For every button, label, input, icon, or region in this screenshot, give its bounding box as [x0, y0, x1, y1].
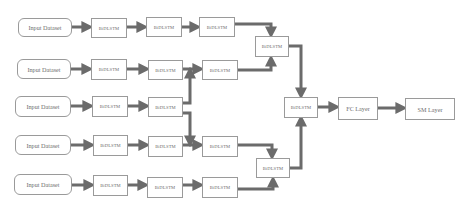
input-dataset-1: Input Dataset	[18, 18, 72, 37]
bidlstm-r5-c3: BiDLSTM	[202, 177, 238, 198]
fc-layer: FC Layer	[338, 97, 378, 120]
bidlstm-r3-c2: BiDLSTM	[148, 97, 183, 117]
bidlstm-r4-c1: BiDLSTM	[93, 135, 128, 156]
bidlstm-r5-c1: BiDLSTM	[93, 175, 128, 196]
input-dataset-3: Input Dataset	[15, 96, 71, 117]
bidlstm-r4-c2: BiDLSTM	[148, 136, 183, 157]
bidlstm-r3-c1: BiDLSTM	[92, 96, 128, 117]
bidlstm-r2-c3: BiDLSTM	[202, 60, 238, 80]
bidlstm-merge-bottom: BiDLSTM	[256, 158, 290, 178]
bidlstm-r2-c2: BiDLSTM	[148, 60, 183, 80]
bidlstm-merge-center: BiDLSTM	[284, 97, 318, 118]
input-dataset-2: Input Dataset	[17, 59, 71, 79]
bidlstm-r1-c1: BiDLSTM	[91, 18, 127, 38]
bidlstm-r2-c1: BiDLSTM	[91, 59, 127, 80]
sm-layer: SM Layer	[405, 98, 455, 120]
input-dataset-4: Input Dataset	[15, 135, 71, 155]
bidlstm-r5-c2: BiDLSTM	[147, 177, 183, 198]
bidlstm-r1-c2: BiDLSTM	[146, 17, 182, 37]
bidlstm-merge-top: BiDLSTM	[255, 36, 289, 57]
bidlstm-r4-c3: BiDLSTM	[202, 136, 238, 157]
input-dataset-5: Input Dataset	[14, 174, 72, 195]
bidlstm-r1-c3: BiDLSTM	[199, 17, 235, 37]
